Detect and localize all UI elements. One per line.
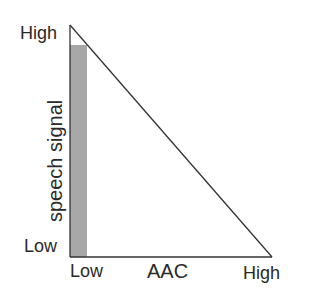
y-axis-label: speech signal [44,100,67,222]
y-low-label: Low [24,237,57,255]
hypotenuse-line [70,25,272,257]
x-low-label: Low [70,262,103,280]
x-axis-label: AAC [147,262,188,280]
y-high-label: High [20,24,57,42]
x-high-label: High [243,264,280,282]
speech-signal-bar [70,45,87,257]
